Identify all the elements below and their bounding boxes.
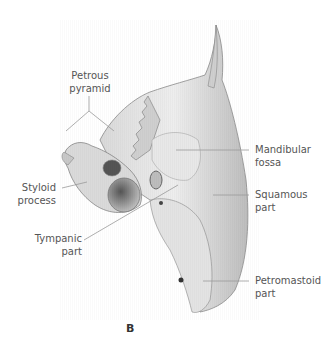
label-petrous-pyramid: Petrous pyramid [60,70,120,95]
temporal-bone-illustration [0,0,326,354]
label-line: Squamous [255,189,308,202]
label-line: Tympanic [20,233,82,246]
panel-letter: B [126,322,134,335]
label-line: Petromastoid [255,275,321,288]
label-line: pyramid [60,83,120,96]
label-line: part [20,246,82,259]
label-line: fossa [255,157,311,170]
label-line: part [255,202,308,215]
label-mandibular-fossa: Mandibular fossa [255,144,311,169]
label-line: Petrous [60,70,120,83]
label-styloid-process: Styloid process [6,182,56,207]
label-tympanic-part: Tympanic part [20,233,82,258]
label-line: Styloid [6,182,56,195]
label-squamous-part: Squamous part [255,189,308,214]
label-line: part [255,288,321,301]
label-line: Mandibular [255,144,311,157]
label-petromastoid-part: Petromastoid part [255,275,321,300]
label-line: process [6,195,56,208]
